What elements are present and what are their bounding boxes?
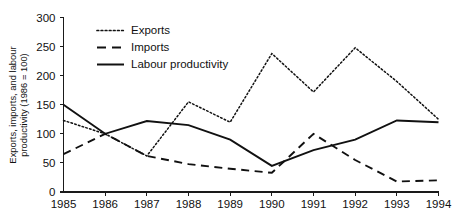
chart-legend: ExportsImportsLabour productivity: [97, 24, 228, 70]
y-axis-title-line-2: productivity (1986 = 100): [18, 53, 29, 156]
line-chart: Exports, imports, and labour productivit…: [0, 0, 462, 219]
data-series-group: [64, 48, 439, 182]
y-tick-label: 50: [43, 157, 56, 169]
y-tick-label: 250: [36, 41, 55, 53]
x-tick-label: 1993: [384, 198, 410, 210]
x-tick-label: 1987: [134, 198, 160, 210]
y-tick-label: 300: [36, 12, 55, 24]
x-tick-label: 1992: [342, 198, 368, 210]
x-tick-label: 1985: [51, 198, 77, 210]
x-tick-label: 1986: [92, 198, 118, 210]
legend-label-imports: Imports: [131, 41, 170, 53]
x-tick-label: 1991: [301, 198, 327, 210]
y-axis-title-line-1: Exports, imports, and labour: [7, 46, 18, 163]
y-tick-label: 100: [36, 128, 55, 140]
y-tick-label: 200: [36, 70, 55, 82]
x-axis: 1985198619871988198919901991199219931994: [51, 192, 452, 210]
y-axis-title: Exports, imports, and labour productivit…: [7, 46, 29, 163]
y-tick-label: 0: [49, 186, 55, 198]
legend-label-exports: Exports: [131, 24, 170, 36]
x-tick-label: 1990: [259, 198, 285, 210]
x-tick-label: 1994: [426, 198, 452, 210]
y-tick-label: 150: [36, 99, 55, 111]
x-tick-label: 1989: [217, 198, 243, 210]
x-tick-label: 1988: [176, 198, 202, 210]
legend-label-labour-productivity: Labour productivity: [131, 58, 228, 70]
y-axis: 050100150200250300: [36, 12, 63, 199]
chart-container: Exports, imports, and labour productivit…: [0, 0, 462, 219]
series-line-labour-productivity: [64, 105, 439, 166]
